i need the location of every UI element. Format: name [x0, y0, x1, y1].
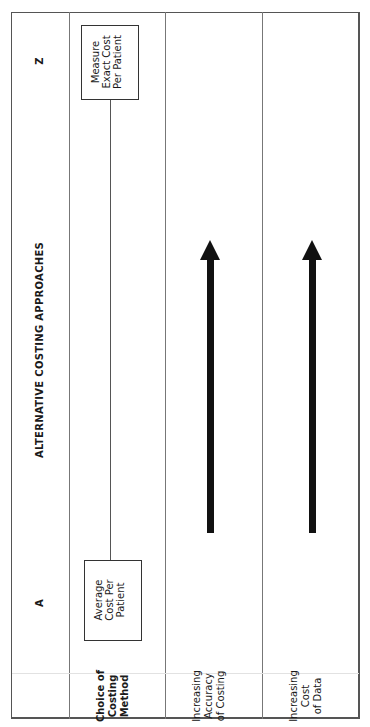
- scale-start-label: A: [33, 593, 47, 613]
- scale-end-label: Z: [33, 51, 47, 71]
- end-box-text: Measure Exact Cost Per Patient: [90, 24, 130, 100]
- diagram-frame: [11, 12, 360, 719]
- row-label-accuracy: Increasing Accuracy of Costing: [191, 656, 235, 727]
- column-divider-1: [69, 12, 70, 719]
- accuracy-arrow-shaft: [207, 258, 214, 533]
- accuracy-arrow-head: [200, 240, 220, 260]
- column-divider-2: [165, 12, 166, 719]
- start-box-text: Average Cost Per Patient: [93, 562, 133, 638]
- data-cost-arrow-head: [302, 240, 322, 260]
- row-label-data-cost: Increasing Cost of Data: [288, 656, 332, 727]
- end-box-measure-exact-cost: Measure Exact Cost Per Patient: [81, 25, 139, 100]
- diagram-title: ALTERNATIVE COSTING APPROACHES: [33, 200, 47, 500]
- start-box-average-cost: Average Cost Per Patient: [84, 560, 142, 641]
- row-label-costing-method: Choice of Costing Method: [95, 656, 139, 727]
- data-cost-arrow-shaft: [309, 258, 316, 533]
- connector-line: [110, 99, 111, 560]
- column-divider-3: [262, 12, 263, 719]
